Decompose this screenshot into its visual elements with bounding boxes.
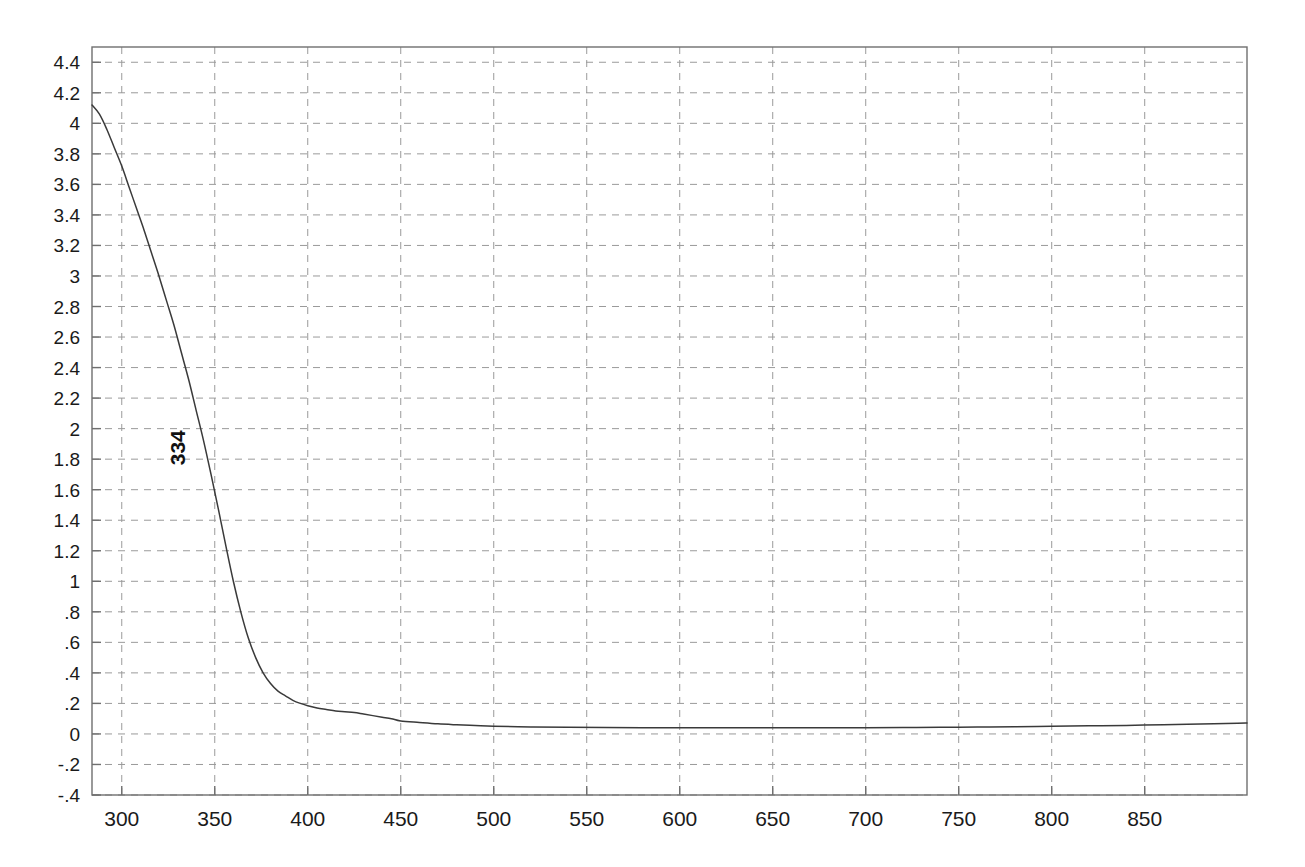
y-axis-tick-labels: -.4-.20.2.4.6.811.21.41.61.822.22.42.62.…	[54, 52, 81, 806]
y-tick-label: -.2	[58, 754, 80, 775]
spectrum-chart: 300350400450500550600650700750800850 -.4…	[0, 0, 1305, 867]
y-tick-label: 3.2	[54, 235, 80, 256]
plot-border	[92, 47, 1247, 795]
x-tick-label: 850	[1127, 807, 1162, 830]
y-tick-label: .8	[64, 602, 80, 623]
x-tick-label: 450	[383, 807, 418, 830]
x-tick-label: 550	[569, 807, 604, 830]
peak-annotations: 334	[166, 430, 189, 465]
y-tick-label: 1	[69, 571, 80, 592]
y-tick-label: 2.6	[54, 327, 80, 348]
y-tick-label: 1.2	[54, 541, 80, 562]
x-axis-ticks	[122, 786, 1145, 795]
y-tick-label: 1.4	[54, 510, 81, 531]
y-tick-label: 2.2	[54, 388, 80, 409]
absorbance-curve[interactable]	[92, 105, 1247, 728]
x-tick-label: 500	[476, 807, 511, 830]
y-tick-label: 1.6	[54, 480, 80, 501]
plot-canvas[interactable]: 300350400450500550600650700750800850 -.4…	[0, 0, 1305, 867]
y-tick-label: 3.6	[54, 174, 80, 195]
x-tick-label: 700	[848, 807, 883, 830]
x-axis-tick-labels: 300350400450500550600650700750800850	[104, 807, 1162, 830]
y-tick-label: 1.8	[54, 449, 80, 470]
x-tick-label: 650	[755, 807, 790, 830]
y-axis-ticks	[92, 62, 101, 795]
y-tick-label: 3.8	[54, 144, 80, 165]
vertical-gridlines	[122, 47, 1145, 795]
x-tick-label: 600	[662, 807, 697, 830]
data-series-group[interactable]	[92, 105, 1247, 728]
y-tick-label: 4.2	[54, 83, 80, 104]
y-tick-label: 0	[69, 724, 80, 745]
plot-frame	[92, 47, 1247, 795]
y-tick-label: .4	[64, 663, 80, 684]
peak-label-334: 334	[166, 430, 189, 465]
y-tick-label: 4	[69, 113, 80, 134]
y-tick-label: 2.4	[54, 358, 81, 379]
y-tick-label: 2.8	[54, 297, 80, 318]
x-tick-label: 800	[1034, 807, 1069, 830]
y-tick-label: 3	[69, 266, 80, 287]
y-tick-label: .6	[64, 632, 80, 653]
y-tick-label: 4.4	[54, 52, 81, 73]
x-tick-label: 750	[941, 807, 976, 830]
y-tick-label: -.4	[58, 785, 81, 806]
y-tick-label: 3.4	[54, 205, 81, 226]
y-tick-label: .2	[64, 693, 80, 714]
x-tick-label: 300	[104, 807, 139, 830]
y-tick-label: 2	[69, 419, 80, 440]
x-tick-label: 350	[197, 807, 232, 830]
x-tick-label: 400	[290, 807, 325, 830]
horizontal-gridlines	[92, 62, 1247, 795]
